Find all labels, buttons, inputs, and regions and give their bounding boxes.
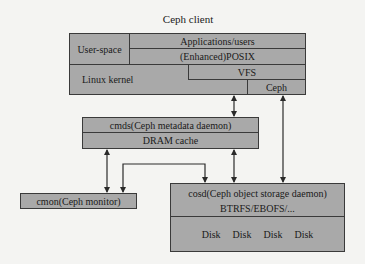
arrow-cmon-cosd	[123, 164, 205, 192]
connector-arrows	[0, 0, 365, 264]
